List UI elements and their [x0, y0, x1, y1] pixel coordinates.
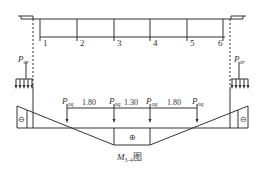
- spacing-2: 1.30: [124, 98, 138, 107]
- point-load-2: Poq: [108, 96, 121, 107]
- girder-label-3: 3: [117, 38, 122, 48]
- load-left-label: Por: [17, 54, 30, 65]
- sign-left: ⊖: [18, 115, 25, 124]
- girder-label-1: 1: [43, 38, 48, 48]
- influence-line-diagram: 1 2 3 4 5 6 Por Por Poq Poq Poq Poq 1.80…: [0, 0, 264, 174]
- spacing-1: 1.80: [82, 98, 96, 107]
- sign-center: ⊕: [129, 133, 136, 142]
- load-right-label: Por: [233, 54, 246, 65]
- spacing-3: 1.80: [167, 98, 181, 107]
- caption: M3–4图: [116, 152, 142, 163]
- point-load-1: Poq: [61, 96, 74, 107]
- girder-label-6: 6: [218, 38, 223, 48]
- girder-label-4: 4: [153, 38, 158, 48]
- sign-right: ⊖: [240, 115, 247, 124]
- girder-label-5: 5: [190, 38, 195, 48]
- point-load-4: Poq: [191, 96, 204, 107]
- girder-label-2: 2: [80, 38, 85, 48]
- point-load-3: Poq: [145, 96, 158, 107]
